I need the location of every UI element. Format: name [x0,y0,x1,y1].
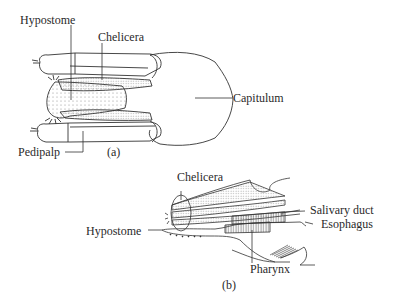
label-pedipalp: Pedipalp [18,146,60,158]
label-esophagus: Esophagus [321,218,373,230]
lower-pedipalp [37,122,161,142]
capitulum-outline [149,52,233,145]
caption-a: (a) [107,146,120,158]
label-chelicera-b: Chelicera [177,171,223,183]
label-hypostome-a: Hypostome [20,14,75,26]
label-hypostome-b: Hypostome [86,225,141,237]
panel-a-drawing [30,52,233,145]
caption-b: (b) [222,279,236,291]
upper-pedipalp [39,53,161,76]
label-capitulum: Capitulum [233,92,284,104]
panel-b-drawing [162,178,315,265]
label-chelicera-a: Chelicera [98,31,144,43]
label-salivary-duct: Salivary duct [310,204,374,216]
label-pharynx: Pharynx [250,263,290,275]
